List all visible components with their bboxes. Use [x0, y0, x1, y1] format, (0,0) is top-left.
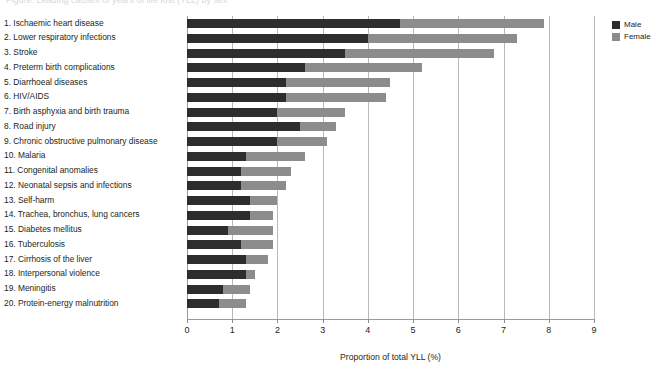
bar-segment-male[interactable]: [187, 299, 219, 308]
bar-row[interactable]: [187, 152, 305, 161]
category-label: 9. Chronic obstructive pulmonary disease: [4, 137, 176, 146]
legend-label-female: Female: [624, 33, 651, 41]
bar-segment-female[interactable]: [241, 240, 273, 249]
bar-segment-male[interactable]: [187, 63, 305, 72]
bar-segment-female[interactable]: [250, 211, 273, 220]
bar-segment-female[interactable]: [286, 93, 385, 102]
category-label: 1. Ischaemic heart disease: [4, 19, 176, 28]
bar-segment-male[interactable]: [187, 19, 400, 28]
bar-segment-female[interactable]: [277, 137, 327, 146]
bar-row[interactable]: [187, 211, 273, 220]
bar-row[interactable]: [187, 181, 286, 190]
x-tick-label-7: 7: [501, 325, 506, 336]
bar-segment-male[interactable]: [187, 285, 223, 294]
bar-row[interactable]: [187, 196, 277, 205]
bar-segment-male[interactable]: [187, 240, 241, 249]
category-label: 12. Neonatal sepsis and infections: [4, 181, 176, 190]
bar-row[interactable]: [187, 137, 327, 146]
bar-segment-male[interactable]: [187, 34, 368, 43]
bar-segment-female[interactable]: [277, 108, 345, 117]
bar-segment-male[interactable]: [187, 226, 228, 235]
bar-segment-male[interactable]: [187, 211, 250, 220]
bar-segment-female[interactable]: [300, 122, 336, 131]
x-tick-label-5: 5: [411, 325, 416, 336]
category-label: 11. Congenital anomalies: [4, 166, 176, 175]
x-axis-ticks: 0123456789: [187, 319, 594, 337]
category-label: 16. Tuberculosis: [4, 240, 176, 249]
bar-series-group: [187, 16, 594, 319]
bar-segment-female[interactable]: [223, 285, 250, 294]
bar-row[interactable]: [187, 34, 517, 43]
category-label: 8. Road injury: [4, 122, 176, 131]
bar-row[interactable]: [187, 285, 250, 294]
bar-segment-female[interactable]: [286, 78, 390, 87]
bar-segment-male[interactable]: [187, 181, 241, 190]
bar-row[interactable]: [187, 63, 422, 72]
x-tick-5: [413, 319, 414, 323]
bar-segment-male[interactable]: [187, 108, 277, 117]
x-tick-label-3: 3: [320, 325, 325, 336]
bar-row[interactable]: [187, 226, 273, 235]
x-tick-8: [549, 319, 550, 323]
bar-segment-female[interactable]: [400, 19, 545, 28]
bar-segment-male[interactable]: [187, 122, 300, 131]
bar-segment-female[interactable]: [246, 255, 269, 264]
bar-segment-female[interactable]: [241, 181, 286, 190]
bar-segment-male[interactable]: [187, 255, 246, 264]
bar-row[interactable]: [187, 78, 391, 87]
bar-segment-male[interactable]: [187, 78, 286, 87]
bar-segment-female[interactable]: [250, 196, 277, 205]
bar-row[interactable]: [187, 19, 544, 28]
bar-row[interactable]: [187, 270, 255, 279]
bar-row[interactable]: [187, 49, 495, 58]
bar-segment-male[interactable]: [187, 167, 241, 176]
bar-row[interactable]: [187, 255, 268, 264]
bar-segment-male[interactable]: [187, 137, 277, 146]
cropped-title-sliver: Figure: Leading causes of years of life …: [0, 0, 662, 7]
x-tick-7: [504, 319, 505, 323]
x-tick-6: [458, 319, 459, 323]
legend-label-male: Male: [624, 21, 641, 29]
bar-row[interactable]: [187, 122, 336, 131]
bar-segment-female[interactable]: [241, 167, 291, 176]
bar-row[interactable]: [187, 93, 386, 102]
category-label: 10. Malaria: [4, 151, 176, 160]
x-tick-label-6: 6: [456, 325, 461, 336]
category-label: 14. Trachea, bronchus, lung cancers: [4, 210, 176, 219]
legend-swatch-female-icon: [612, 33, 620, 41]
bar-segment-male[interactable]: [187, 270, 246, 279]
bar-segment-female[interactable]: [305, 63, 423, 72]
bar-row[interactable]: [187, 167, 291, 176]
x-tick-3: [323, 319, 324, 323]
bar-segment-female[interactable]: [246, 270, 255, 279]
bar-segment-male[interactable]: [187, 152, 246, 161]
category-label: 7. Birth asphyxia and birth trauma: [4, 107, 176, 116]
x-tick-label-0: 0: [184, 325, 189, 336]
x-tick-2: [277, 319, 278, 323]
category-label: 4. Preterm birth complications: [4, 63, 176, 72]
category-label: 20. Protein-energy malnutrition: [4, 299, 176, 308]
bar-segment-female[interactable]: [219, 299, 246, 308]
bar-segment-male[interactable]: [187, 93, 286, 102]
bar-row[interactable]: [187, 108, 345, 117]
bar-segment-female[interactable]: [228, 226, 273, 235]
category-label: 19. Meningitis: [4, 284, 176, 293]
legend-item-female: Female: [612, 33, 660, 41]
bar-segment-female[interactable]: [368, 34, 517, 43]
bar-segment-male[interactable]: [187, 49, 345, 58]
category-label: 5. Diarrhoeal diseases: [4, 78, 176, 87]
legend-item-male: Male: [612, 21, 660, 29]
category-label: 13. Self-harm: [4, 196, 176, 205]
bar-segment-male[interactable]: [187, 196, 250, 205]
bar-segment-female[interactable]: [246, 152, 305, 161]
bar-segment-female[interactable]: [345, 49, 494, 58]
gridline-9: [594, 16, 595, 319]
category-label: 2. Lower respiratory infections: [4, 33, 176, 42]
x-tick-0: [187, 319, 188, 323]
category-label: 18. Interpersonal violence: [4, 269, 176, 278]
cropped-title-text: Figure: Leading causes of years of life …: [6, 0, 228, 5]
bar-row[interactable]: [187, 299, 246, 308]
legend-swatch-male-icon: [612, 21, 620, 29]
legend: Male Female: [612, 21, 660, 45]
bar-row[interactable]: [187, 240, 273, 249]
